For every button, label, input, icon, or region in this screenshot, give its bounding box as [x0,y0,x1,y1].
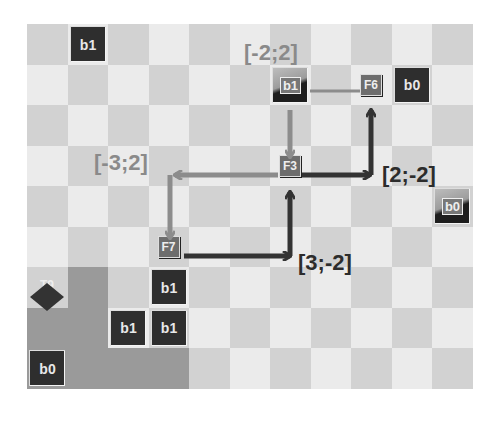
grid-cell[interactable] [311,186,352,227]
grid-cell[interactable] [108,24,149,65]
grid-cell[interactable] [351,348,392,389]
grid-cell[interactable] [392,186,433,227]
grid-cell[interactable] [351,267,392,308]
grid-cell[interactable] [189,65,230,106]
grid-cell[interactable] [311,146,352,187]
grid-cell[interactable] [392,348,433,389]
grid-cell[interactable] [270,348,311,389]
node-f6[interactable]: F6 [360,74,382,96]
grid-cell[interactable] [432,146,473,187]
grid-cell[interactable] [351,308,392,349]
grid-cell[interactable] [189,308,230,349]
grid-cell[interactable] [351,24,392,65]
tile-label: b1 [280,77,301,94]
node-f7[interactable]: F7 [158,236,180,258]
grid-cell[interactable] [432,308,473,349]
grid-cell[interactable] [27,65,68,106]
grid-cell[interactable] [189,186,230,227]
grid-cell[interactable] [108,105,149,146]
grid-cell[interactable] [108,227,149,268]
grid-cell[interactable] [27,24,68,65]
coord-label-neg2-2: [-2;2] [244,40,298,66]
grid-cell[interactable] [230,105,271,146]
grid-cell[interactable] [392,105,433,146]
grid-cell[interactable] [68,186,109,227]
grid-cell[interactable] [189,146,230,187]
grid-cell[interactable] [108,65,149,106]
grid-cell[interactable] [230,267,271,308]
node-f3[interactable]: F3 [279,155,301,177]
node-t9[interactable]: T9 [36,274,58,296]
grid-cell[interactable] [189,105,230,146]
grid-cell[interactable] [189,348,230,389]
shaded-zone [108,348,189,389]
grid-cell[interactable] [68,105,109,146]
grid-cell[interactable] [149,24,190,65]
grid-cell[interactable] [189,227,230,268]
grid-cell[interactable] [432,227,473,268]
tile-b1-b[interactable]: b1 [110,310,146,346]
tile-b1-top[interactable]: b1 [70,26,106,62]
grid-cell[interactable] [230,308,271,349]
grid-cell[interactable] [392,227,433,268]
tile-b0-right[interactable]: b0 [394,67,430,103]
grid-cell[interactable] [432,105,473,146]
grid-cell[interactable] [68,227,109,268]
grid-cell[interactable] [311,24,352,65]
grid-cell[interactable] [311,105,352,146]
grid-cell[interactable] [27,227,68,268]
tile-b1-a[interactable]: b1 [151,269,187,305]
grid-cell[interactable] [392,267,433,308]
grid-cell[interactable] [270,105,311,146]
grid-cell[interactable] [351,105,392,146]
grid-cell[interactable] [311,348,352,389]
grid-cell[interactable] [311,308,352,349]
tile-b1-framed[interactable]: b1 [272,67,308,103]
grid-cell[interactable] [270,186,311,227]
coord-label-3-neg2: [3;-2] [298,250,352,276]
grid-cell[interactable] [230,186,271,227]
coord-label-neg3-2: [-3;2] [94,150,148,176]
tile-b0-framed[interactable]: b0 [434,188,470,224]
grid-cell[interactable] [230,227,271,268]
grid-cell[interactable] [311,65,352,106]
tile-b1-c[interactable]: b1 [151,310,187,346]
grid-cell[interactable] [189,267,230,308]
grid-cell[interactable] [432,267,473,308]
grid-cell[interactable] [351,186,392,227]
grid-cell[interactable] [230,65,271,106]
shaded-zone [68,267,109,308]
grid-cell[interactable] [149,146,190,187]
grid-cell[interactable] [270,308,311,349]
tile-label: b0 [442,198,463,215]
grid-cell[interactable] [432,24,473,65]
grid-cell[interactable] [149,65,190,106]
grid-cell[interactable] [27,105,68,146]
grid-cell[interactable] [230,146,271,187]
grid-cell[interactable] [392,24,433,65]
grid-cell[interactable] [149,105,190,146]
coord-label-2-neg2: [2;-2] [382,162,436,188]
grid-cell[interactable] [149,186,190,227]
grid-cell[interactable] [108,186,149,227]
grid-board: b1b1b0b0b1b1b1b0F6F3F7T9 [27,24,473,388]
grid-cell[interactable] [351,227,392,268]
grid-cell[interactable] [27,186,68,227]
grid-cell[interactable] [230,348,271,389]
grid-cell[interactable] [68,65,109,106]
tile-b0-bottom[interactable]: b0 [29,350,65,386]
grid-cell[interactable] [432,65,473,106]
grid-cell[interactable] [432,348,473,389]
grid-cell[interactable] [27,146,68,187]
grid-cell[interactable] [392,308,433,349]
grid-cell[interactable] [108,267,149,308]
grid-cell[interactable] [189,24,230,65]
